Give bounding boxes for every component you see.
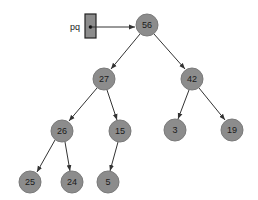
node-label: 25: [25, 177, 35, 187]
pointer-pq: pq: [70, 14, 135, 38]
node-label: 5: [105, 177, 110, 187]
edge-56-27: [111, 34, 140, 69]
node-24: 24: [61, 171, 83, 193]
edge-27-15: [107, 90, 117, 120]
node-56: 56: [136, 14, 158, 36]
edge-56-42: [154, 34, 185, 69]
edge-26-24: [65, 142, 70, 171]
node-label: 26: [57, 126, 67, 136]
node-25: 25: [19, 171, 41, 193]
edge-26-25: [37, 140, 55, 172]
node-27: 27: [93, 68, 115, 90]
node-label: 42: [187, 74, 197, 84]
node-42: 42: [181, 68, 203, 90]
edge-42-3: [178, 90, 189, 119]
node-label: 15: [115, 126, 125, 136]
edge-15-5: [110, 142, 118, 171]
node-5: 5: [97, 171, 119, 193]
edges: [37, 34, 225, 172]
node-label: 3: [172, 125, 177, 135]
node-3: 3: [164, 119, 186, 141]
node-label: 19: [227, 125, 237, 135]
node-label: 56: [142, 20, 152, 30]
node-label: 24: [67, 177, 77, 187]
node-label: 27: [99, 74, 109, 84]
pointer-label: pq: [70, 22, 80, 32]
heap-diagram: pq 56 27 42 26 15 3 1: [0, 0, 258, 200]
edge-42-19: [199, 88, 225, 120]
node-15: 15: [109, 120, 131, 142]
node-26: 26: [51, 120, 73, 142]
node-19: 19: [221, 119, 243, 141]
edge-27-26: [69, 88, 97, 121]
